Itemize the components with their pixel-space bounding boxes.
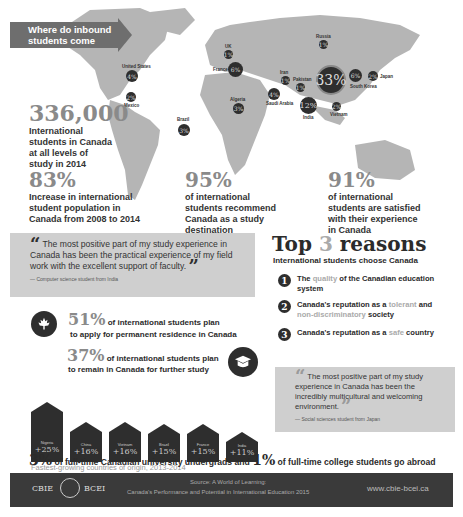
quote-india-attribution: — Computer science student from India: [30, 274, 237, 285]
reason-1: 1 The quality of the Canadian education …: [278, 274, 437, 294]
pin-vietnam: 2%: [332, 102, 341, 111]
reason-number: 1: [278, 274, 291, 287]
total-students-number: 336,000: [29, 100, 129, 126]
satisfied-number: 91%: [328, 168, 375, 192]
abroad-num1: 3%: [29, 452, 52, 468]
pin-label-saudi: Saudi Arabia: [266, 101, 293, 106]
quote-india-text: The most positive part of my study exper…: [30, 239, 233, 271]
abroad-stat: 3% of full-time Canadian university unde…: [29, 452, 436, 468]
recommend-text: of international students recommend Cana…: [185, 192, 285, 236]
pin-label-france: France: [213, 67, 228, 72]
pin-label-india: India: [303, 115, 314, 120]
footer-source-line2: Canada's Performance and Potential in In…: [127, 489, 309, 495]
pin-label-uk: UK: [225, 44, 232, 49]
pin-label-pakistan: Pakistan: [293, 77, 312, 82]
graduation-cap-icon: [228, 347, 258, 377]
logo-bcei: BCEI: [84, 484, 105, 493]
top3-subtitle: International students choose Canada: [273, 256, 418, 265]
abroad-text2: of full-time college students go abroad: [278, 457, 436, 467]
total-students-text: International students in Canada at all …: [29, 126, 114, 170]
logo-emblem-icon: [60, 478, 80, 498]
pin-russia: 1%: [319, 40, 328, 49]
map-banner: Where do inbound students come from?: [10, 22, 118, 48]
pin-label-iran: Iran: [280, 70, 288, 75]
abroad-text1: of full-time Canadian university undergr…: [54, 457, 249, 467]
further-study-number: 37%: [67, 346, 104, 365]
quote-india: “ The most positive part of my study exp…: [10, 233, 255, 297]
reason-text: Canada's reputation as a: [297, 300, 387, 309]
pin-brazil: 3%: [178, 124, 190, 136]
recommend-number: 95%: [185, 168, 232, 192]
residence-number: 51%: [68, 310, 105, 329]
footer-url-link[interactable]: www.cbie-bcei.ca: [367, 484, 429, 493]
pin-algeria: 3%: [233, 103, 244, 114]
pin-label-russia: Russia: [316, 34, 331, 39]
logo-cbie: CBIE: [32, 484, 53, 493]
pin-label-vietnam: Vietnam: [330, 112, 347, 117]
pin-india: 12%: [300, 97, 317, 114]
abroad-num2: 1%: [252, 452, 275, 468]
pin-label-algeria: Algeria: [230, 97, 245, 102]
reason-2: 2 Canada's reputation as a tolerant and …: [278, 300, 447, 320]
further-study-text2: to remain in Canada for further study: [68, 365, 209, 374]
reason-highlight: quality: [313, 274, 337, 283]
reason-text: Canada's reputation as a: [297, 328, 387, 337]
reason-text: society: [368, 310, 394, 319]
quote-japan-attribution: — Social sciences student from Japan: [295, 414, 445, 424]
pin-label-japan: Japan: [380, 74, 393, 79]
reason-text: The: [297, 274, 311, 283]
growth-number: 83%: [29, 168, 76, 192]
reason-number: 3: [278, 328, 291, 341]
pin-label-south-korea: South Korea: [350, 84, 377, 89]
top3-title-num: 3: [319, 232, 333, 256]
growth-text: Increase in international student popula…: [29, 192, 144, 225]
close-quote-icon: ”: [188, 256, 198, 277]
reason-3: 3 Canada's reputation as a safe country: [278, 328, 457, 341]
footer-source-line1: Source: A World of Learning:: [190, 479, 266, 485]
satisfied-text: of international students are satisfied …: [328, 192, 428, 236]
pin-label-us: United States: [122, 64, 151, 69]
top3-title-post: reasons: [340, 232, 427, 256]
footer: CBIE BCEI Source: A World of Learning: C…: [10, 473, 453, 507]
pin-saudi-arabia: 4%: [268, 88, 280, 100]
residence-stat: 51% of international students plan: [68, 310, 220, 329]
pin-france: 6%: [228, 62, 243, 77]
maple-leaf-icon: [31, 311, 57, 337]
pin-us: 4%: [126, 70, 138, 82]
further-study-text1: of international students plan: [107, 354, 219, 363]
reason-text: and: [419, 300, 433, 309]
reason-number: 2: [278, 300, 291, 313]
pin-label-brazil: Brazil: [177, 117, 189, 122]
top3-title-pre: Top: [272, 232, 312, 256]
pin-china: 33%: [316, 65, 346, 95]
quote-japan-text: The most positive part of my study exper…: [295, 372, 423, 411]
pin-south-korea: 6%: [349, 69, 362, 82]
further-study-stat: 37% of international students plan: [67, 346, 219, 365]
reason-highlight: safe: [389, 328, 404, 337]
pin-japan: 2%: [368, 71, 378, 81]
pin-uk: 1%: [224, 50, 233, 59]
top3-title: Top 3 reasons: [272, 232, 426, 256]
quote-japan: “ The most positive part of my study exp…: [275, 367, 455, 432]
residence-text2: to apply for permanent residence in Cana…: [70, 330, 237, 339]
reason-highlight: tolerant: [389, 300, 417, 309]
pin-pakistan: 1%: [296, 83, 305, 92]
reason-text: country: [406, 328, 434, 337]
reason-highlight: non-discriminatory: [297, 310, 366, 319]
residence-text1: of international students plan: [108, 318, 220, 327]
pin-iran: 1%: [281, 76, 290, 85]
